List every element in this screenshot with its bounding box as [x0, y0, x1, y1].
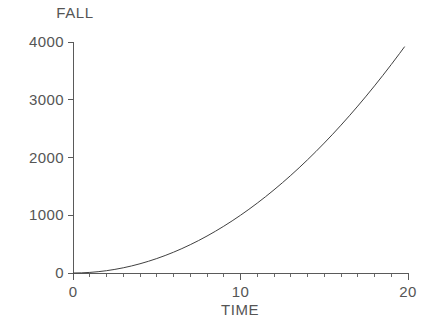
chart-container: 01000200030004000 01020 FALL TIME: [0, 0, 435, 327]
x-tick-label: 10: [232, 283, 250, 300]
y-tick-label: 3000: [29, 91, 64, 108]
y-tick-label: 0: [55, 264, 64, 281]
x-tick-label: 0: [69, 283, 78, 300]
y-tick-label: 4000: [29, 33, 64, 50]
y-axis-major-ticks: [68, 42, 73, 273]
data-series-curve-fall: [73, 47, 405, 273]
line-chart-plot: 01000200030004000 01020 FALL TIME: [0, 0, 435, 327]
y-axis-tick-labels: 01000200030004000: [29, 33, 64, 281]
y-tick-label: 1000: [29, 206, 64, 223]
y-axis-title: FALL: [56, 4, 93, 21]
x-axis-tick-labels: 01020: [69, 283, 417, 300]
x-axis-title: TIME: [221, 301, 259, 318]
x-tick-label: 20: [399, 283, 417, 300]
y-tick-label: 2000: [29, 149, 64, 166]
